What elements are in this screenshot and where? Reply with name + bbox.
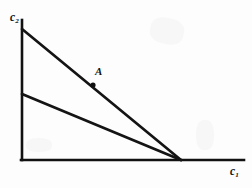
horizontal-axis-label-subscript: 1 xyxy=(235,171,239,179)
point-a-marker xyxy=(90,82,95,87)
figure-canvas xyxy=(0,0,252,188)
lower-budget-line xyxy=(22,94,181,160)
point-a-label: A xyxy=(95,66,102,77)
vertical-axis-label-subscript: 2 xyxy=(15,17,19,25)
vertical-axis-label: c2 xyxy=(10,12,19,25)
upper-budget-line xyxy=(22,29,181,160)
horizontal-axis-label: c1 xyxy=(230,166,239,179)
budget-constraint-figure: c2 c1 A xyxy=(0,0,252,188)
